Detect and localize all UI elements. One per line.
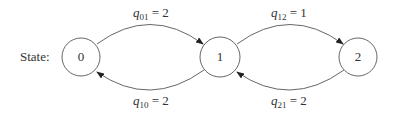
state-row-label: State: [20,49,50,65]
arrow-1-to-0 [97,70,204,90]
state-1-label: 1 [210,49,230,65]
diagram-canvas [0,0,397,117]
rate-label-q12: q12 = 1 [271,5,307,22]
arrow-2-to-1 [237,70,344,90]
rate-label-q01: q01 = 2 [133,5,169,22]
state-0-label: 0 [71,49,91,65]
rate-label-q21: q21 = 2 [271,93,307,110]
rate-label-q10: q10 = 2 [133,93,169,110]
arrow-0-to-1 [97,25,203,45]
arrow-1-to-2 [237,25,343,45]
state-2-label: 2 [348,49,368,65]
